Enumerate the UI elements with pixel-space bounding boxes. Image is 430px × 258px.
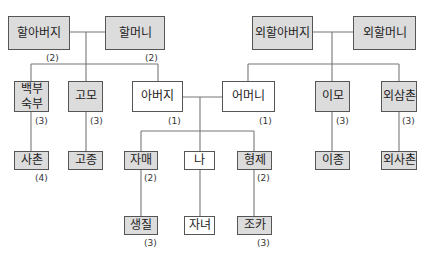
node-maternal-uncle: 외삼촌 — [381, 81, 417, 112]
node-maternal-aunt: 이모 — [315, 81, 350, 112]
node-label: 고모 — [75, 89, 97, 103]
node-paternal-aunt-child: 고종 — [68, 151, 103, 170]
node-grandfather: 할아버지 — [8, 16, 70, 50]
node-grandmother: 할머니 — [105, 16, 165, 50]
node-label: 고종 — [75, 153, 97, 167]
node-brother: 형제 — [237, 151, 272, 170]
degree-label: (2) — [145, 53, 158, 63]
node-label: 외삼촌 — [383, 89, 416, 103]
node-maternal-aunt-child: 이종 — [315, 151, 350, 170]
node-label: 이종 — [322, 153, 344, 167]
node-label: 사촌 — [21, 153, 43, 167]
node-label: 어머니 — [232, 89, 265, 103]
node-sister: 자매 — [124, 151, 158, 170]
node-label: 이모 — [322, 89, 344, 103]
node-label: 형제 — [244, 153, 266, 167]
node-label: 외사촌 — [383, 153, 416, 167]
node-label: 외할아버지 — [255, 26, 310, 40]
node-paternal-aunt: 고모 — [68, 81, 103, 112]
node-label: 자매 — [130, 153, 152, 167]
degree-label: (2) — [144, 173, 157, 183]
node-label: 할아버지 — [17, 26, 61, 40]
node-label: 자녀 — [189, 218, 211, 232]
node-label: 외할머니 — [363, 26, 407, 40]
node-label: 생질 — [130, 218, 152, 232]
node-maternal-grandmother: 외할머니 — [353, 16, 416, 50]
node-label: 아버지 — [141, 89, 174, 103]
node-label: 조카 — [244, 218, 266, 232]
node-label: 백부 숙부 — [21, 82, 43, 111]
node-maternal-grandfather: 외할아버지 — [252, 16, 313, 50]
degree-label: (2) — [46, 53, 59, 63]
degree-label: (1) — [259, 116, 272, 126]
node-maternal-cousin: 외사촌 — [381, 151, 417, 170]
degree-label: (3) — [90, 116, 103, 126]
node-sister-child: 생질 — [124, 216, 158, 235]
degree-label: (3) — [257, 238, 270, 248]
degree-label: (3) — [35, 116, 48, 126]
degree-label: (4) — [35, 173, 48, 183]
node-paternal-uncle: 백부 숙부 — [14, 81, 49, 112]
node-nephew: 조카 — [237, 216, 272, 235]
degree-label: (2) — [257, 173, 270, 183]
degree-label: (3) — [402, 116, 415, 126]
node-self: 나 — [184, 151, 215, 170]
degree-label: (1) — [168, 116, 181, 126]
node-label: 할머니 — [119, 26, 152, 40]
node-paternal-cousin: 사촌 — [14, 151, 49, 170]
degree-label: (3) — [144, 238, 157, 248]
degree-label: (3) — [336, 116, 349, 126]
node-father: 아버지 — [132, 81, 183, 112]
node-mother: 어머니 — [222, 81, 275, 112]
node-children: 자녀 — [184, 216, 215, 235]
node-label: 나 — [194, 153, 205, 167]
